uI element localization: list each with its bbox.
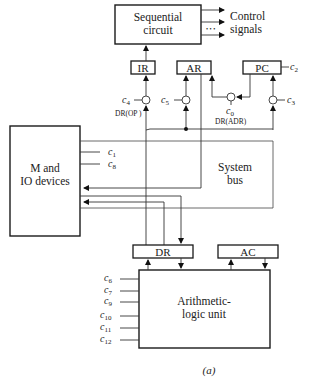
gate-c4: [142, 96, 150, 104]
ar-register: AR: [177, 61, 211, 74]
gate-c0: [227, 93, 235, 101]
signal-c4: c4: [122, 94, 130, 107]
memory-io-label-2: IO devices: [20, 175, 70, 187]
junction-dot: [184, 127, 188, 131]
alu-block: Arithmetic- logic unit: [139, 270, 270, 348]
memory-io-block: M and IO devices: [10, 126, 80, 236]
signal-c8: c8: [108, 158, 116, 171]
dr-register: DR: [133, 245, 193, 258]
signal-c12: c12: [100, 333, 112, 346]
sequential-circuit-block: Sequential circuit: [115, 5, 201, 44]
control-signals-label-2: signals: [230, 23, 262, 36]
dr-label: DR: [155, 246, 171, 258]
gate-c3: [269, 96, 277, 104]
system-bus-label-2: bus: [227, 174, 244, 186]
cpu-datapath-diagram: Sequential circuit • • • Control signals…: [0, 0, 317, 391]
gate-c5: [182, 96, 190, 104]
system-bus-label-1: System: [218, 161, 252, 174]
ir-label: IR: [138, 62, 150, 74]
ir-register: IR: [131, 61, 155, 74]
pc-label: PC: [255, 62, 268, 74]
memory-io-label-1: M and: [30, 162, 60, 174]
alu-label-1: Arithmetic-: [177, 295, 231, 307]
ac-register: AC: [218, 245, 278, 258]
control-signal-arrows: • • •: [201, 10, 224, 35]
signal-c2: c2: [290, 61, 298, 74]
dr-adr-label: DR(ADR): [215, 117, 247, 126]
dr-op-label: DR(OP ): [115, 109, 142, 118]
signal-c5: c5: [161, 94, 169, 107]
pc-register: PC: [243, 61, 281, 74]
alu-control-signals: c6 c7 c9 c10 c11 c12: [100, 272, 139, 346]
control-signals-label-1: Control: [230, 10, 265, 22]
ar-label: AR: [186, 62, 202, 74]
sequential-circuit-label-1: Sequential: [134, 11, 183, 24]
ac-label: AC: [240, 246, 255, 258]
alu-label-2: logic unit: [182, 308, 227, 321]
figure-caption: (a): [203, 364, 216, 377]
control-dots: • • •: [206, 26, 215, 32]
signal-c3: c3: [287, 94, 295, 107]
sequential-circuit-label-2: circuit: [143, 24, 173, 36]
